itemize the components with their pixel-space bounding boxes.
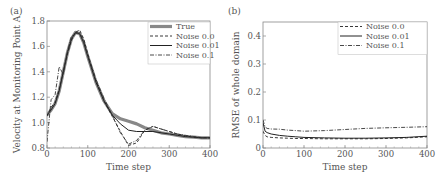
y-tick-label: 0	[256, 143, 261, 153]
x-tick-label: 200	[337, 149, 353, 159]
y-tick-label: 0.4	[247, 31, 261, 41]
y-tick-label: 1.0	[31, 118, 45, 128]
legend-label: Noise 0.0	[176, 32, 214, 41]
legend-label: True	[176, 22, 195, 31]
y-tick-label: 1.2	[31, 92, 45, 102]
panel-b: (b)010020030040000.10.20.30.4Time stepRM…	[228, 6, 435, 172]
y-tick-label: 0.1	[247, 115, 261, 125]
x-axis-label: Time step	[323, 162, 368, 172]
y-tick-label: 0.2	[247, 87, 261, 97]
y-tick-label: 1.8	[31, 16, 45, 26]
legend-label: Noise 0.1	[176, 51, 214, 60]
y-tick-label: 1.4	[31, 67, 45, 77]
x-tick-label: 100	[80, 149, 96, 159]
x-axis-label: Time step	[106, 162, 151, 172]
x-tick-label: 400	[419, 149, 435, 159]
legend: Noise 0.0Noise 0.01Noise 0.1	[338, 22, 427, 55]
legend: TrueNoise 0.0Noise 0.01Noise 0.1	[148, 22, 220, 64]
x-tick-label: 100	[296, 149, 312, 159]
series-line	[263, 120, 427, 131]
x-tick-label: 300	[161, 149, 177, 159]
legend-label: Noise 0.01	[176, 41, 220, 50]
x-tick-label: 200	[120, 149, 136, 159]
x-tick-label: 400	[202, 149, 218, 159]
y-tick-label: 0.3	[247, 59, 261, 69]
legend-label: Noise 0.0	[366, 22, 404, 31]
y-axis-label: RMSE of whole domain	[231, 31, 241, 138]
panel-label: (a)	[10, 6, 22, 16]
figure: (a)01002003004000.81.01.21.41.61.8Time s…	[0, 0, 445, 182]
panel-label: (b)	[228, 6, 241, 16]
legend-label: Noise 0.1	[366, 41, 404, 50]
x-tick-label: 300	[378, 149, 394, 159]
y-axis-label: Velocity at Monitoring Point A	[12, 15, 22, 154]
legend-label: Noise 0.01	[366, 32, 410, 41]
x-tick-label: 0	[260, 149, 265, 159]
y-tick-label: 1.6	[31, 41, 45, 51]
y-tick-label: 0.8	[31, 143, 45, 153]
panel-a: (a)01002003004000.81.01.21.41.61.8Time s…	[10, 6, 220, 172]
x-tick-label: 0	[44, 149, 49, 159]
